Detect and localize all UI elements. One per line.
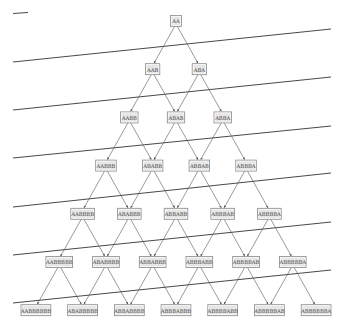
node-abbbabbb: ABBBABBB xyxy=(160,305,192,316)
node-label: AABBBBB xyxy=(45,259,73,265)
edge-arrow xyxy=(131,123,152,160)
node-abbbba: ABBBBA xyxy=(257,208,281,219)
node-label: ABBABBB xyxy=(138,259,166,265)
node-abbabb: ABBABB xyxy=(164,208,188,219)
edge-arrow xyxy=(131,268,152,305)
node-abbbbabb: ABBBBABB xyxy=(207,305,239,316)
node-ababbbb: ABABBBB xyxy=(92,257,120,268)
node-label: ABABBBBB xyxy=(66,308,98,314)
edge-arrow xyxy=(84,171,105,208)
edge-arrow xyxy=(131,75,152,112)
node-label: ABBBBA xyxy=(257,211,281,217)
node-aabbbbb: AABBBBB xyxy=(45,257,73,268)
node-label: AAB xyxy=(146,67,158,73)
edge-arrow xyxy=(247,268,268,305)
node-aabbbbbb: AABBBBBB xyxy=(20,305,52,316)
edge-arrow xyxy=(107,171,128,208)
node-label: ABBBBAB xyxy=(232,259,260,265)
edge-arrow xyxy=(201,219,222,256)
node-label: ABBA xyxy=(214,115,230,121)
node-aa: AA xyxy=(170,16,181,27)
edge-arrow xyxy=(131,171,152,208)
edge-arrow xyxy=(224,171,245,208)
node-label: ABABBBB xyxy=(92,259,120,265)
edge-arrow xyxy=(201,171,222,208)
separator-line xyxy=(13,29,331,62)
node-abbbab: ABBBAB xyxy=(210,208,234,219)
node-aba: ABA xyxy=(192,64,206,75)
node-label: AABBBB xyxy=(70,211,94,217)
edge-arrow xyxy=(247,219,268,256)
node-abbbbba: ABBBBBA xyxy=(278,257,306,268)
edge-arrow xyxy=(84,219,105,256)
node-label: ABBBAB xyxy=(210,211,234,217)
node-label: ABBBABBB xyxy=(160,308,192,314)
edge-arrow xyxy=(247,171,268,208)
node-abbbbab: ABBBBAB xyxy=(232,257,260,268)
edge-arrow xyxy=(154,27,175,64)
node-label: ABBABBBB xyxy=(113,308,145,314)
node-label: AABB xyxy=(121,115,137,121)
node-label: ABBABB xyxy=(164,211,188,217)
node-ababb: ABABB xyxy=(142,160,163,171)
node-abbab: ABBAB xyxy=(189,160,210,171)
edge-arrow xyxy=(154,219,175,256)
node-abbabbbb: ABBABBBB xyxy=(113,305,145,316)
edge-arrow xyxy=(224,123,245,160)
node-abbbbbba: ABBBBBBA xyxy=(300,305,332,316)
separator-line xyxy=(13,77,331,110)
node-abbbbbab: ABBBBBAB xyxy=(253,305,285,316)
node-label: ABBAB xyxy=(189,163,209,169)
edge-arrow xyxy=(271,219,292,256)
separator-line xyxy=(13,13,28,14)
node-ababbbbb: ABABBBBB xyxy=(66,305,98,316)
edge-arrow xyxy=(201,268,222,305)
node-label: ABBBBBAB xyxy=(253,308,285,314)
node-label: ABA xyxy=(193,67,206,73)
edge-arrow xyxy=(84,268,105,305)
node-label: ABABBB xyxy=(117,211,141,217)
separator-line xyxy=(13,222,331,255)
edge-arrow xyxy=(154,75,175,112)
edge-arrow xyxy=(224,219,245,256)
edge-arrow xyxy=(61,268,82,305)
node-label: AABBB xyxy=(95,163,115,169)
edge-arrow xyxy=(154,123,175,160)
edge-arrow xyxy=(107,268,128,305)
node-label: AABBBBBB xyxy=(20,308,52,314)
edge-arrow xyxy=(107,219,128,256)
edge-arrow xyxy=(61,219,82,256)
node-label: ABBBBABB xyxy=(207,308,239,314)
separator-line xyxy=(13,173,331,207)
node-label: AA xyxy=(171,18,180,24)
edge-arrow xyxy=(107,123,128,160)
node-label: ABABB xyxy=(142,163,162,169)
node-aabbb: AABBB xyxy=(95,160,116,171)
edges xyxy=(37,27,314,305)
separator-line xyxy=(13,126,331,158)
edge-arrow xyxy=(271,268,292,305)
edge-arrow xyxy=(131,219,152,256)
edge-arrow xyxy=(154,171,175,208)
string-rewrite-tree-diagram: AAAABABAAABBABABABBAAABBBABABBABBABABBBA… xyxy=(0,0,345,329)
node-aabb: AABB xyxy=(121,112,138,123)
node-abbabbb: ABBABBB xyxy=(138,257,166,268)
edge-arrow xyxy=(154,268,175,305)
edge-arrow xyxy=(201,123,222,160)
node-abab: ABAB xyxy=(167,112,184,123)
node-label: ABAB xyxy=(167,115,183,121)
node-label: ABBBBBA xyxy=(278,259,306,265)
edge-arrow xyxy=(224,268,245,305)
node-label: ABBBA xyxy=(236,163,256,169)
node-aab: AAB xyxy=(146,64,160,75)
separator-line xyxy=(13,270,331,303)
node-aabbbb: AABBBB xyxy=(70,208,94,219)
node-ababbb: ABABBB xyxy=(117,208,141,219)
node-abbbabb: ABBBABB xyxy=(185,257,213,268)
edge-arrow xyxy=(201,75,222,112)
node-abbba: ABBBA xyxy=(236,160,257,171)
node-abba: ABBA xyxy=(214,112,231,123)
node-label: ABBBBBBA xyxy=(300,308,332,314)
node-label: ABBBABB xyxy=(185,259,213,265)
nodes: AAAABABAAABBABABABBAAABBBABABBABBABABBBA… xyxy=(20,16,332,316)
